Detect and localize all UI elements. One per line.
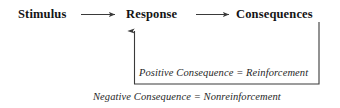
node-label-stimulus: Stimulus bbox=[18, 7, 66, 21]
node-label-response: Response bbox=[126, 7, 177, 21]
annotation-positive-consequence: Positive Consequence = Reinforcement bbox=[139, 66, 308, 79]
node-label-consequences: Consequences bbox=[236, 7, 313, 21]
contingency-diagram: Stimulus Response Consequences Positive … bbox=[0, 0, 340, 108]
annotation-negative-consequence: Negative Consequence = Nonreinforcement bbox=[93, 90, 281, 103]
